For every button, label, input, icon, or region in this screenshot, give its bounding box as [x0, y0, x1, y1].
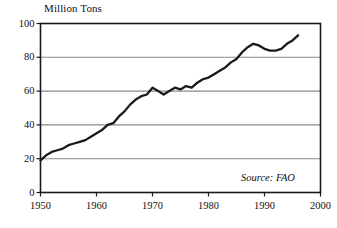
chart-figure: Million Tons Source: FAO 020406080100 19…: [0, 0, 337, 228]
chart-axis-title: Million Tons: [44, 3, 102, 14]
y-tick-label-60: 60: [7, 86, 35, 97]
x-tick-label-1970: 1970: [133, 201, 173, 212]
source-annotation: Source: FAO: [241, 172, 295, 183]
y-tick-label-80: 80: [7, 52, 35, 63]
x-tick-label-1950: 1950: [21, 201, 61, 212]
y-tick-label-20: 20: [7, 154, 35, 165]
y-tick-label-100: 100: [7, 19, 35, 30]
x-tick-label-1960: 1960: [77, 201, 117, 212]
y-tick-label-40: 40: [7, 120, 35, 131]
x-tick-label-2000: 2000: [301, 201, 337, 212]
x-tick-label-1990: 1990: [245, 201, 285, 212]
chart-background: [0, 0, 337, 228]
y-tick-label-0: 0: [7, 188, 35, 199]
x-tick-label-1980: 1980: [189, 201, 229, 212]
chart-plot-svg: [0, 0, 337, 228]
